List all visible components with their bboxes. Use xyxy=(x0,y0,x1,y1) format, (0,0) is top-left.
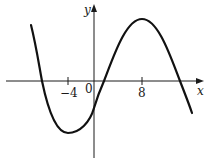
tick-label-0: 0 xyxy=(85,82,93,96)
tick-label-8: 8 xyxy=(138,86,146,100)
x-axis-label: x xyxy=(197,84,204,98)
tick-label-neg4: −4 xyxy=(60,86,78,100)
graph: y x −4 0 8 xyxy=(0,0,209,167)
function-curve xyxy=(31,19,192,133)
y-axis-label: y xyxy=(83,3,91,17)
y-axis-arrow-icon xyxy=(91,4,97,12)
